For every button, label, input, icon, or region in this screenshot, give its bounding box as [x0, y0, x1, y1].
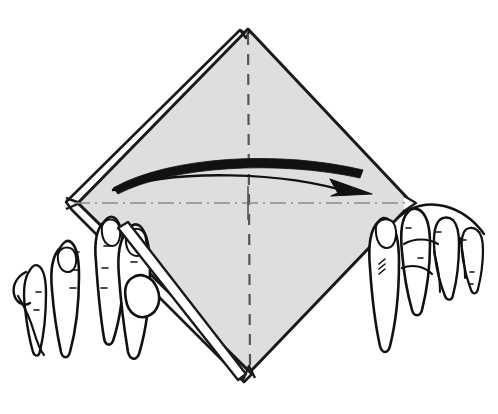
left-hand-fingernail-index — [102, 220, 120, 246]
right-hand-finger-ring — [434, 218, 459, 300]
left-hand-fingertip-over-strip — [125, 275, 159, 317]
right-hand-fingernail-index — [376, 219, 396, 248]
paper-group — [66, 29, 416, 382]
origami-instruction-figure: A square sheet of paper held as a diamon… — [0, 0, 498, 414]
right-hand-finger-middle — [401, 209, 430, 316]
right-hand — [369, 204, 484, 352]
left-hand-fingernail-ring — [58, 248, 76, 273]
figure-canvas — [0, 0, 498, 414]
